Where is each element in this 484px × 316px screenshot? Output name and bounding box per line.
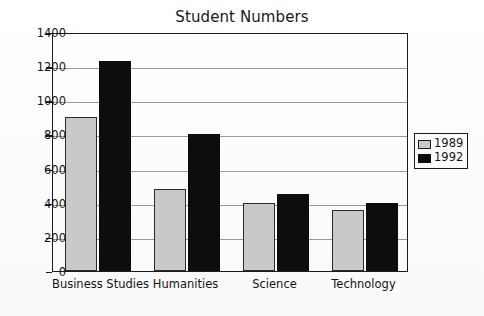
plot-area [52, 33, 408, 272]
chart-legend: 19891992 [414, 133, 468, 169]
legend-label: 1989 [434, 138, 463, 150]
bar-1992-science [277, 194, 309, 271]
y-axis-tick-label: 1400 [37, 26, 66, 40]
x-axis-label-humanities: Humanities [141, 277, 230, 291]
bar-1992-technology [366, 203, 398, 271]
y-axis-tick-mark [46, 272, 52, 273]
bar-1992-humanities [188, 134, 220, 271]
x-axis-label-science: Science [230, 277, 319, 291]
legend-item-1992[interactable]: 1992 [418, 151, 463, 165]
light-gray-swatch [418, 140, 431, 149]
legend-label: 1992 [434, 152, 463, 164]
bar-1989-science [243, 203, 275, 271]
y-axis-tick-label: 1000 [37, 94, 66, 108]
chart-title: Student Numbers [0, 8, 484, 26]
y-axis-tick-label: 800 [44, 128, 66, 142]
bar-1989-business-studies [65, 117, 97, 271]
x-axis-label-technology: Technology [319, 277, 408, 291]
y-axis-tick-label: 600 [44, 163, 66, 177]
black-swatch [418, 154, 431, 163]
chart-page: Student Numbers 19891992 020040060080010… [0, 0, 484, 316]
legend-item-1989[interactable]: 1989 [418, 137, 463, 151]
y-axis-tick-label: 200 [44, 231, 66, 245]
bar-1989-technology [332, 210, 364, 271]
bar-1989-humanities [154, 189, 186, 271]
bar-1992-business-studies [99, 61, 131, 271]
y-axis-tick-label: 1200 [37, 60, 66, 74]
y-axis-tick-label: 400 [44, 197, 66, 211]
x-axis-label-business-studies: Business Studies [52, 277, 141, 291]
